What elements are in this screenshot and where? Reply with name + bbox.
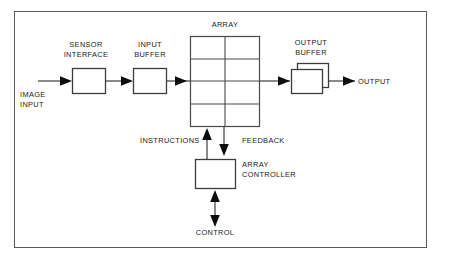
output-buffer-front-box: [292, 70, 323, 94]
array-to-output-buffer-arrowhead: [278, 76, 290, 86]
sensor-to-buffer-arrowhead: [121, 76, 133, 86]
input-buffer-label: INPUT BUFFER: [120, 40, 180, 59]
feedback-signal-label: FEEDBACK: [242, 136, 298, 146]
diagram-canvas: SENSOR INTERFACE INPUT BUFFER ARRAY OUTP…: [0, 0, 452, 261]
sensor-interface-box: [73, 69, 106, 94]
control-port-label: CONTROL: [186, 228, 244, 238]
array-controller-label: ARRAY CONTROLLER: [242, 160, 312, 179]
output-buffer-label: OUTPUT BUFFER: [282, 38, 340, 57]
buffer-to-array-arrowhead: [175, 76, 187, 86]
input-buffer-box: [134, 69, 167, 94]
control-arrowhead-up: [210, 190, 220, 202]
instructions-signal-label: INSTRUCTIONS: [140, 136, 202, 146]
image-input-arrowhead: [60, 76, 72, 86]
control-arrowhead-down: [210, 215, 220, 227]
sensor-interface-label: SENSOR INTERFACE: [56, 40, 116, 59]
output-port-label: OUTPUT: [358, 77, 418, 87]
array-label: ARRAY: [195, 20, 255, 30]
instructions-arrowhead: [202, 128, 212, 140]
image-input-port-label: IMAGE INPUT: [20, 90, 70, 109]
feedback-arrowhead: [219, 144, 229, 156]
array-controller-box: [196, 160, 236, 189]
output-arrowhead: [343, 76, 355, 86]
